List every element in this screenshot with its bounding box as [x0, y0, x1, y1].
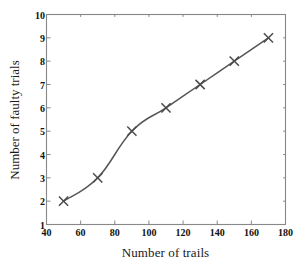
- data-point-marker: [127, 127, 136, 136]
- data-point-marker: [93, 173, 102, 182]
- x-tick-label: 100: [141, 227, 156, 238]
- y-tick-label: 6: [23, 102, 45, 113]
- axis-ticks: [47, 15, 286, 225]
- y-tick-label: 5: [23, 126, 45, 137]
- y-tick-label: 8: [23, 56, 45, 67]
- data-series-line: [64, 38, 269, 201]
- y-tick-label: 9: [23, 32, 45, 43]
- x-tick-label: 160: [244, 227, 259, 238]
- x-tick-label: 80: [110, 227, 120, 238]
- x-axis-label: Number of trails: [46, 245, 285, 261]
- data-point-marker: [264, 33, 273, 42]
- y-tick-label: 10: [23, 9, 45, 20]
- chart-figure: Number of trails Number of faulty trials…: [0, 0, 307, 269]
- axes-frame: [47, 15, 286, 225]
- data-point-markers: [59, 33, 273, 206]
- x-tick-label: 60: [76, 227, 86, 238]
- data-point-marker: [196, 80, 205, 89]
- y-tick-label: 2: [23, 196, 45, 207]
- y-tick-label: 1: [23, 219, 45, 230]
- data-point-marker: [59, 197, 68, 206]
- plot-frame: [47, 15, 286, 225]
- x-tick-label: 180: [278, 227, 293, 238]
- x-tick-label: 140: [210, 227, 225, 238]
- x-tick-label: 120: [176, 227, 191, 238]
- data-point-marker: [230, 57, 239, 66]
- y-tick-label: 4: [23, 149, 45, 160]
- series-line: [64, 38, 269, 201]
- y-tick-label: 7: [23, 79, 45, 90]
- y-tick-label: 3: [23, 172, 45, 183]
- data-point-marker: [161, 103, 170, 112]
